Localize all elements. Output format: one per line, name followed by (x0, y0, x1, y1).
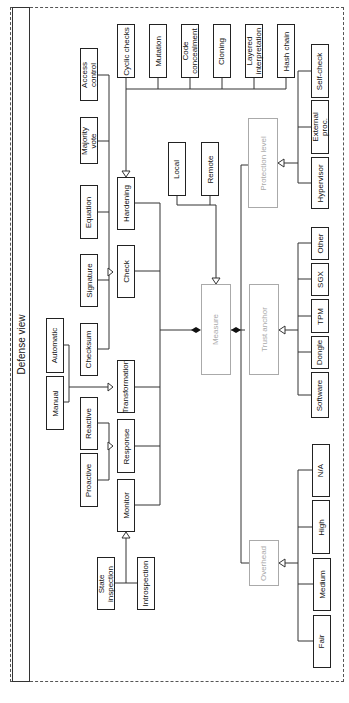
node-manual: Manual (46, 376, 64, 430)
node-hypervisor: Hypervisor (311, 157, 329, 209)
node-measure: Measure (201, 284, 231, 375)
node-label: Measure (212, 314, 221, 345)
node-label: Introspection (142, 561, 151, 607)
node-proactive: Proactive (80, 453, 98, 507)
node-layered-interpretation: Layered interpretation (245, 24, 263, 78)
node-trust-anchor: Trust anchor (249, 284, 279, 375)
node-majority-vote: Majority vote (80, 117, 98, 164)
node-label: Proactive (85, 463, 94, 496)
node-label: TPM (316, 308, 325, 325)
node-label: State inspection (97, 565, 115, 601)
node-response: Response (117, 419, 135, 473)
node-equation: Equation (80, 185, 98, 239)
node-protection-level: Protection level (248, 118, 278, 208)
node-hardening: Hardening (117, 177, 135, 230)
node-external-proc: External proc. (311, 100, 329, 154)
node-state-inspection: State inspection (97, 557, 115, 610)
node-label: Remote (206, 155, 215, 183)
diagram-canvas: Defense view (0, 0, 349, 703)
node-tpm: TPM (311, 299, 329, 333)
node-label: Checksum (85, 331, 94, 369)
node-checksum: Checksum (80, 323, 98, 376)
node-label: Majority vote (80, 126, 98, 154)
node-label: Hardening (122, 185, 131, 222)
node-label: Fair (318, 635, 327, 649)
node-label: Access control (80, 62, 98, 88)
node-label: Manual (51, 390, 60, 416)
node-label: Signature (85, 263, 94, 297)
node-label: N/A (317, 464, 326, 477)
node-monitor: Monitor (117, 479, 135, 532)
node-na: N/A (312, 444, 330, 497)
node-label: Automatic (51, 328, 60, 364)
node-other: Other (311, 227, 329, 260)
node-cyclic-checks: Cyclic checks (117, 24, 135, 78)
node-label: Other (316, 233, 325, 253)
node-software: Software (311, 372, 329, 418)
node-sgx: SGX (311, 263, 329, 296)
node-label: Medium (318, 570, 327, 598)
node-label: Mutation (154, 36, 163, 67)
node-label: Response (122, 428, 131, 464)
node-mutation: Mutation (149, 24, 167, 78)
node-overhead: Overhead (249, 540, 279, 586)
node-label: Self-check (316, 52, 325, 89)
node-label: Transformation (122, 360, 131, 414)
node-label: Layered interpretation (245, 28, 263, 75)
node-hash-chain: Hash chain (277, 24, 295, 78)
node-label: Protection level (259, 136, 268, 191)
node-reactive: Reactive (80, 397, 98, 450)
node-check: Check (117, 245, 135, 298)
node-cloning: Cloning (213, 24, 231, 78)
node-label: Hash chain (282, 31, 291, 71)
node-label: Check (122, 260, 131, 283)
node-access-control: Access control (80, 48, 98, 101)
node-label: Code concealment (181, 28, 199, 73)
node-label: Overhead (260, 545, 269, 580)
node-introspection: Introspection (137, 557, 155, 610)
node-label: Dongle (316, 340, 325, 365)
node-label: SGX (316, 271, 325, 288)
node-label: Local (173, 159, 182, 178)
node-label: Cloning (218, 37, 227, 64)
node-dongle: Dongle (311, 336, 329, 369)
node-label: Hypervisor (316, 164, 325, 202)
node-signature: Signature (80, 254, 98, 307)
node-label: Trust anchor (260, 307, 269, 352)
node-label: Monitor (122, 492, 131, 519)
node-label: Cyclic checks (122, 27, 131, 75)
node-label: Equation (85, 196, 94, 228)
node-label: High (317, 519, 326, 535)
node-label: External proc. (311, 112, 329, 141)
node-self-check: Self-check (311, 44, 329, 98)
node-high: High (312, 500, 330, 554)
node-code-concealment: Code concealment (181, 24, 199, 78)
node-label: Software (316, 379, 325, 411)
node-automatic: Automatic (46, 318, 64, 373)
node-local: Local (168, 142, 186, 196)
node-medium: Medium (313, 558, 331, 611)
node-remote: Remote (201, 142, 219, 196)
node-label: Reactive (85, 408, 94, 439)
node-fair: Fair (313, 615, 331, 668)
node-transformation: Transformation (117, 360, 135, 413)
